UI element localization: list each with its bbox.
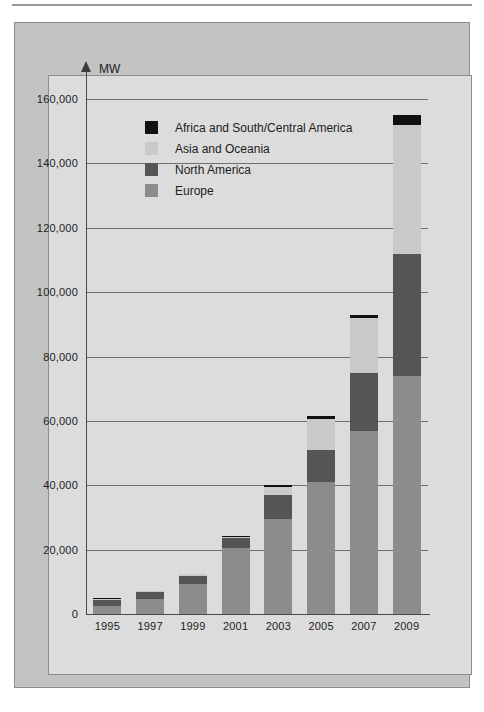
bar-segment [393,254,421,376]
bar-stack [350,315,378,614]
y-axis-unit-label: MW [99,62,120,76]
legend-item-label: Africa and South/Central America [175,121,352,135]
legend-item: Asia and Oceania [145,138,352,159]
x-axis-tick-label: 2007 [351,620,376,632]
bar-segment [264,495,292,519]
bar-segment [136,599,164,614]
y-axis-tick-label: 140,000 [37,157,78,169]
bar-stack [307,416,335,614]
y-axis-tick-label: 120,000 [37,222,78,234]
bar-stack [393,115,421,614]
bar-segment [350,373,378,431]
bar-stack [93,598,121,614]
x-axis-tick-label: 2009 [394,620,419,632]
bar-segment [264,487,292,495]
bar-stack [136,591,164,614]
bar-segment [179,576,207,585]
bar-segment [350,431,378,614]
chart-figure: 160,000140,000120,000100,00080,00060,000… [0,0,484,712]
legend-item: North America [145,159,352,180]
y-axis-tick-label: 0 [72,608,78,620]
legend-swatch-icon [145,163,158,176]
bar-segment [393,125,421,254]
bar-segment [393,376,421,614]
bar-segment [93,606,121,614]
legend-item-label: Europe [175,184,214,198]
x-axis-tick-label: 1999 [180,620,205,632]
y-axis-arrow-icon [81,61,91,72]
x-axis-tick-label: 2001 [223,620,248,632]
bar-stack [264,485,292,614]
y-axis-tick-label: 40,000 [43,479,78,491]
legend-item-label: Asia and Oceania [175,142,270,156]
page-top-rule [12,4,472,6]
legend-item: Africa and South/Central America [145,117,352,138]
bar-segment [350,318,378,373]
y-axis-tick-label: 100,000 [37,286,78,298]
x-axis-line [86,614,430,615]
y-axis-tick-label: 160,000 [37,93,78,105]
legend-swatch-icon [145,184,158,197]
chart-legend: Africa and South/Central AmericaAsia and… [145,117,352,201]
x-axis-tick-label: 1997 [137,620,162,632]
legend-swatch-icon [145,121,158,134]
bar-segment [307,450,335,482]
bar-segment [307,482,335,614]
x-axis-tick-label: 2005 [308,620,333,632]
bar-segment [307,419,335,450]
legend-item: Europe [145,180,352,201]
bar-segment [222,548,250,614]
y-axis-tick-label: 20,000 [43,544,78,556]
bar-segment [179,584,207,614]
x-axis-tick-label: 1995 [95,620,120,632]
legend-item-label: North America [175,163,251,177]
x-axis-tick-label: 2003 [266,620,291,632]
bar-stack [179,574,207,614]
bar-stack [222,536,250,614]
legend-swatch-icon [145,142,158,155]
bar-segment [222,538,250,548]
y-axis-tick-label: 60,000 [43,415,78,427]
bar-segment [393,115,421,125]
y-axis-tick-label: 80,000 [43,351,78,363]
bar-segment [264,519,292,614]
